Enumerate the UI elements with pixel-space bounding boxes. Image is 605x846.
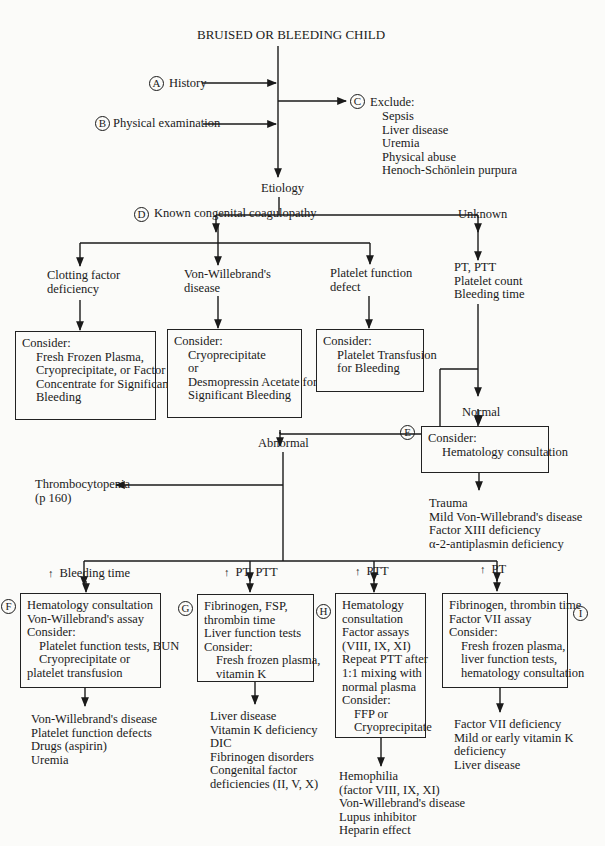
exclude-item: Physical abuse <box>382 151 517 165</box>
physical-exam-label: Physical examination <box>113 117 220 131</box>
etiology-node: Etiology <box>261 182 304 196</box>
pt-outcomes: Factor VII deficiency Mild or early vita… <box>454 718 573 772</box>
pt-ptt-box: Fibrinogen, FSP, thrombin time Liver fun… <box>197 594 314 682</box>
increase-arrow-icon: ↑ <box>355 565 361 577</box>
normal-node: Normal <box>462 406 500 420</box>
known-coagulopathy-node: Known congenital coagulopathy <box>154 207 316 221</box>
exclude-item: Sepsis <box>382 110 517 124</box>
increase-arrow-icon: ↑ <box>224 566 230 578</box>
pt-ptt-outcomes: Liver disease Vitamin K deficiency DIC F… <box>210 710 318 792</box>
exclude-list: Sepsis Liver disease Uremia Physical abu… <box>382 110 517 178</box>
exclude-heading: Exclude: <box>370 96 414 110</box>
pt-label: ↑PT <box>480 563 506 577</box>
clotting-factor-box: Consider: Fresh Frozen Plasma, Cryopreci… <box>15 331 156 420</box>
exclude-item: Liver disease <box>382 124 517 138</box>
step-f-marker: F <box>1 599 16 614</box>
bleeding-time-box: Hematology consultation Von-Willebrand's… <box>20 593 161 688</box>
increase-arrow-icon: ↑ <box>480 563 486 575</box>
von-willebrand-box: Consider: Cryoprecipitate or Desmopressi… <box>167 329 302 418</box>
thrombocytopenia-link[interactable]: Thrombocytopenia (p 160) <box>35 478 130 505</box>
ptt-box: Hematology consultation Factor assays (V… <box>335 593 426 738</box>
pt-box: Fibrinogen, thrombin time Factor VII ass… <box>442 593 568 688</box>
ptt-label: ↑PTT <box>355 565 389 579</box>
step-b-marker: B <box>95 116 110 131</box>
bleeding-time-label: ↑Bleeding time <box>48 567 130 581</box>
step-c-marker: C <box>350 94 365 109</box>
flowchart-title: BRUISED OR BLEEDING CHILD <box>197 28 385 42</box>
hematology-consult-box: Consider: Hematology consultation <box>421 426 549 473</box>
exclude-item: Henoch-Schönlein purpura <box>382 164 517 178</box>
step-a-marker: A <box>149 76 164 91</box>
step-h-marker: H <box>316 604 331 619</box>
step-e-marker: E <box>400 425 415 440</box>
step-d-marker: D <box>134 207 149 222</box>
exclude-item: Uremia <box>382 137 517 151</box>
clotting-factor-node: Clotting factor deficiency <box>47 269 120 296</box>
ptt-outcomes: Hemophilia (factor VIII, IX, XI) Von-Wil… <box>339 770 465 838</box>
unknown-node: Unknown <box>458 208 507 222</box>
platelet-function-node: Platelet function defect <box>330 267 412 294</box>
pt-ptt-label: ↑PT, PTT <box>224 566 278 580</box>
von-willebrand-node: Von-Willebrand's disease <box>184 268 271 295</box>
history-label: History <box>169 77 207 91</box>
platelet-function-box: Consider: Platelet Transfusion for Bleed… <box>316 329 424 392</box>
abnormal-node: Abnormal <box>258 437 309 451</box>
bleeding-time-outcomes: Von-Willebrand's disease Platelet functi… <box>31 713 157 767</box>
step-g-marker: G <box>178 601 193 616</box>
step-i-marker: I <box>573 606 588 621</box>
increase-arrow-icon: ↑ <box>48 567 54 579</box>
screening-tests-node: PT, PTT Platelet count Bleeding time <box>454 261 524 302</box>
normal-outcomes: Trauma Mild Von-Willebrand's disease Fac… <box>429 497 582 551</box>
